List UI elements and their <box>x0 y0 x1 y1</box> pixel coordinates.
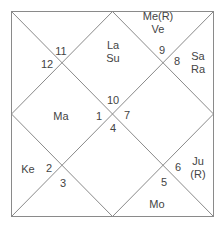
planet-sun: Su <box>106 52 119 65</box>
house-6-planets: Mo <box>149 198 164 211</box>
house-2-sign: 9 <box>159 44 165 57</box>
house-7-sign: 4 <box>110 122 116 135</box>
house-9-planets: Ke <box>21 163 34 176</box>
retrograde-marker: (R) <box>190 168 205 181</box>
house-12-sign: 11 <box>55 45 66 58</box>
house-6-sign: 5 <box>161 176 167 189</box>
planet-saturn: Sa <box>191 50 205 63</box>
planet-ketu: Ke <box>21 163 34 176</box>
planet-lagna: La <box>106 39 119 52</box>
house-5-planets: Ju (R) <box>190 155 205 181</box>
house-5-sign: 6 <box>175 161 181 174</box>
planet-jupiter: Ju <box>190 155 205 168</box>
house-11-sign: 12 <box>41 58 53 71</box>
house-1-planets: La Su <box>106 39 119 65</box>
planet-mars: Ma <box>53 110 68 123</box>
house-10-planets: Ma <box>53 110 68 123</box>
planet-moon: Mo <box>149 198 164 211</box>
house-3-sign: 8 <box>174 55 180 68</box>
house-8-sign: 3 <box>60 177 66 190</box>
planet-venus: Ve <box>143 23 174 36</box>
planet-rahu: Ra <box>191 63 205 76</box>
house-2-planets: Me(R) Ve <box>143 10 174 36</box>
planet-mercury: Me(R) <box>143 10 174 23</box>
chart-frame <box>0 0 220 225</box>
house-10-sign: 1 <box>96 110 102 123</box>
house-9-sign: 2 <box>46 162 52 175</box>
house-3-planets: Sa Ra <box>191 50 205 76</box>
house-4-sign: 7 <box>124 109 130 122</box>
house-1-sign: 10 <box>107 94 119 107</box>
